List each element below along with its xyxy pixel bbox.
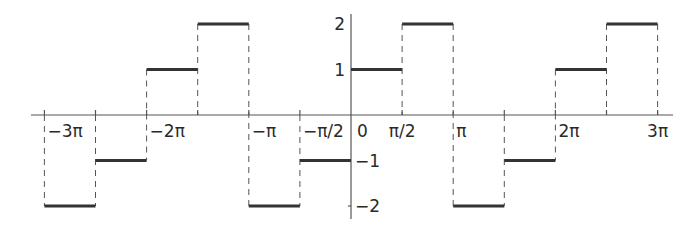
y-tick-label: 2 bbox=[334, 14, 345, 34]
chart-svg: −3π−2π−π−π/20π/2π2π3π 21−1−2 bbox=[0, 0, 700, 229]
x-tick-label: π bbox=[456, 121, 466, 141]
y-tick-label: 1 bbox=[334, 60, 345, 80]
x-tick-label: −π/2 bbox=[303, 121, 344, 141]
x-tick-label: −2π bbox=[150, 121, 185, 141]
x-tick-label: 2π bbox=[558, 121, 579, 141]
x-tick-label: −π bbox=[252, 121, 276, 141]
x-tick-label: π/2 bbox=[389, 121, 416, 141]
step-function-chart: −3π−2π−π−π/20π/2π2π3π 21−1−2 bbox=[0, 0, 700, 229]
x-tick-label: −3π bbox=[47, 121, 82, 141]
y-tick-label: −2 bbox=[355, 196, 380, 216]
x-tick-label: 0 bbox=[357, 121, 368, 141]
x-tick-label: 3π bbox=[647, 121, 668, 141]
y-tick-label: −1 bbox=[355, 151, 380, 171]
